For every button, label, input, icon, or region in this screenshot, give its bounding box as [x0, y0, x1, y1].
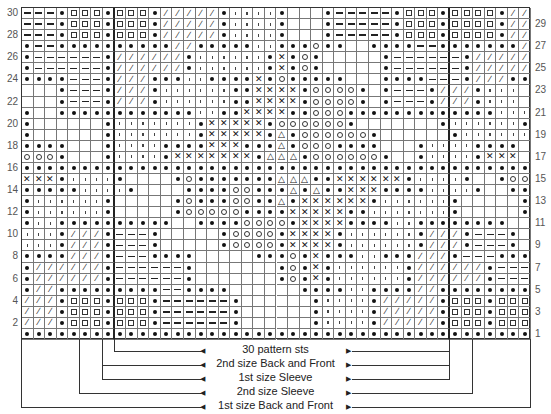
- cross-symbol-icon: ✕: [323, 240, 335, 251]
- blank-symbol-icon: [34, 85, 46, 96]
- circle-symbol-icon: [34, 152, 46, 163]
- blank-symbol-icon: [138, 196, 150, 207]
- chart-row-28: ∕∕∕∕∕∕∕: [22, 30, 529, 41]
- blank-symbol-icon: [404, 141, 416, 152]
- blank-symbol-icon: [277, 307, 289, 318]
- row-number-6: 6: [0, 273, 18, 284]
- blank-symbol-icon: [149, 207, 161, 218]
- chart-row-10: ∕∕∕✕✕✕✕∕∕∕: [22, 229, 529, 240]
- tick-symbol-icon: [103, 185, 115, 196]
- dot-symbol-icon: [300, 329, 312, 340]
- triangle-symbol-icon: △: [288, 185, 300, 196]
- cross-symbol-icon: ✕: [207, 152, 219, 163]
- dot-symbol-icon: [288, 163, 300, 174]
- dot-symbol-icon: [219, 229, 231, 240]
- dot-symbol-icon: [357, 108, 369, 119]
- blank-symbol-icon: [68, 152, 80, 163]
- blank-symbol-icon: [138, 185, 150, 196]
- triangle-symbol-icon: △: [300, 174, 312, 185]
- slash-symbol-icon: ∕: [450, 263, 462, 274]
- blank-symbol-icon: [415, 119, 427, 130]
- dot-symbol-icon: [45, 163, 57, 174]
- dot-symbol-icon: [288, 141, 300, 152]
- dash-symbol-icon: [149, 274, 161, 285]
- dot-symbol-icon: [508, 185, 520, 196]
- dot-symbol-icon: [473, 152, 485, 163]
- dot-symbol-icon: [311, 174, 323, 185]
- dash-symbol-icon: [45, 52, 57, 63]
- dot-symbol-icon: [230, 318, 242, 329]
- dot-symbol-icon: [242, 141, 254, 152]
- dot-symbol-icon: [485, 285, 497, 296]
- chart-row-9: ∕∕∕✕✕✕✕∕∕∕: [22, 240, 529, 251]
- slash-symbol-icon: ∕: [34, 307, 46, 318]
- dot-symbol-icon: [57, 19, 69, 30]
- row-number-26: 26: [0, 51, 18, 62]
- blank-symbol-icon: [91, 130, 103, 141]
- dot-symbol-icon: [265, 119, 277, 130]
- blank-symbol-icon: [369, 63, 381, 74]
- dash-symbol-icon: [115, 229, 127, 240]
- blank-symbol-icon: [404, 119, 416, 130]
- dot-symbol-icon: [415, 74, 427, 85]
- tick-symbol-icon: [346, 263, 358, 274]
- triangle-symbol-icon: △: [265, 152, 277, 163]
- tick-symbol-icon: [196, 74, 208, 85]
- slash-symbol-icon: ∕: [508, 19, 520, 30]
- tick-symbol-icon: [149, 152, 161, 163]
- square-symbol-icon: [91, 8, 103, 19]
- dash-symbol-icon: [172, 318, 184, 329]
- slash-symbol-icon: ∕: [381, 307, 393, 318]
- dot-symbol-icon: [438, 19, 450, 30]
- slash-symbol-icon: ∕: [415, 318, 427, 329]
- slash-symbol-icon: ∕: [91, 251, 103, 262]
- label-text: 1st size Back and Front: [215, 399, 336, 411]
- slash-symbol-icon: ∕: [115, 85, 127, 96]
- dot-symbol-icon: [265, 63, 277, 74]
- circle-symbol-icon: [242, 240, 254, 251]
- dot-symbol-icon: [91, 108, 103, 119]
- blank-symbol-icon: [323, 63, 335, 74]
- square-symbol-icon: [126, 30, 138, 41]
- square-symbol-icon: [115, 19, 127, 30]
- row-number-23: 23: [535, 84, 546, 95]
- dot-symbol-icon: [392, 74, 404, 85]
- row-number-12: 12: [0, 206, 18, 217]
- blank-symbol-icon: [207, 240, 219, 251]
- dot-symbol-icon: [242, 97, 254, 108]
- dot-symbol-icon: [473, 141, 485, 152]
- slash-symbol-icon: ∕: [68, 263, 80, 274]
- dot-symbol-icon: [196, 130, 208, 141]
- tick-symbol-icon: [508, 108, 520, 119]
- dot-symbol-icon: [57, 108, 69, 119]
- dot-symbol-icon: [277, 41, 289, 52]
- slash-symbol-icon: ∕: [172, 19, 184, 30]
- tick-symbol-icon: [34, 240, 46, 251]
- dash-symbol-icon: [68, 63, 80, 74]
- dot-symbol-icon: [138, 285, 150, 296]
- tick-symbol-icon: [404, 218, 416, 229]
- dot-symbol-icon: [172, 196, 184, 207]
- cross-symbol-icon: ✕: [277, 63, 289, 74]
- blank-symbol-icon: [519, 97, 531, 108]
- blank-symbol-icon: [300, 30, 312, 41]
- tick-symbol-icon: [485, 97, 497, 108]
- square-symbol-icon: [126, 19, 138, 30]
- dash-symbol-icon: [68, 52, 80, 63]
- square-symbol-icon: [126, 296, 138, 307]
- slash-symbol-icon: ∕: [115, 97, 127, 108]
- circle-symbol-icon: [323, 141, 335, 152]
- tick-symbol-icon: [138, 130, 150, 141]
- circle-symbol-icon: [346, 97, 358, 108]
- blank-symbol-icon: [22, 85, 34, 96]
- tick-symbol-icon: [45, 207, 57, 218]
- dash-symbol-icon: [381, 19, 393, 30]
- row-number-21: 21: [535, 107, 546, 118]
- dash-symbol-icon: [404, 85, 416, 96]
- circle-symbol-icon: [300, 119, 312, 130]
- circle-symbol-icon: [311, 152, 323, 163]
- dot-symbol-icon: [323, 19, 335, 30]
- dot-symbol-icon: [138, 163, 150, 174]
- blank-symbol-icon: [196, 251, 208, 262]
- tick-symbol-icon: [427, 152, 439, 163]
